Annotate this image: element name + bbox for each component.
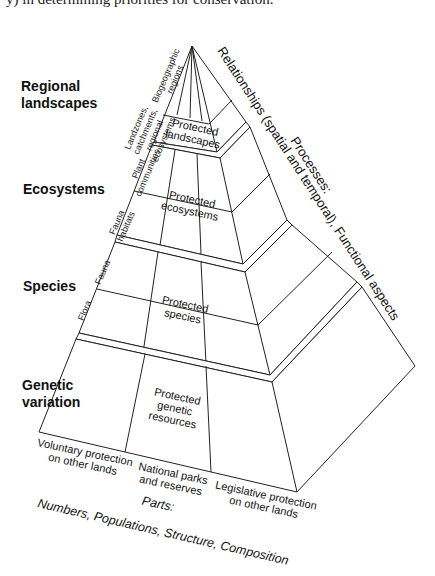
level-label-genetic-variation: Genetic variation <box>22 377 80 411</box>
level-label-species: Species <box>23 278 76 295</box>
level-label-regional-landscapes: Regional landscapes <box>21 78 97 112</box>
level-label-ecosystems: Ecosystems <box>23 181 105 198</box>
